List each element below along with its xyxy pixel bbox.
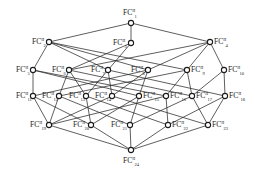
edge-fc2-fc5 (33, 42, 49, 70)
node-fc6 (66, 67, 71, 72)
node-label-fc5: FCII5 (16, 65, 31, 76)
node-fc10 (221, 67, 226, 72)
node-fc19 (46, 122, 51, 127)
edge-fc21-fc24 (130, 125, 131, 150)
node-fc23 (205, 122, 210, 127)
node-label-fc12: FCII12 (42, 91, 58, 102)
node-label-fc14: FCII14 (95, 91, 112, 102)
node-label-fc19: FCII19 (30, 120, 47, 131)
node-label-fc16: FCII16 (170, 91, 187, 102)
node-label-fc23: FCII23 (212, 120, 229, 131)
node-label-fc4: FCII4 (214, 37, 229, 48)
node-label-fc7: FCII7 (91, 65, 106, 76)
edge-fc7-fc14 (108, 70, 112, 96)
lattice-nodes (30, 20, 227, 152)
node-label-fc18: FCII18 (229, 91, 246, 102)
node-label-fc21: FCII21 (111, 120, 127, 131)
node-label-fc10: FCII10 (228, 65, 245, 76)
concept-lattice-diagram: FCII1FCII2FCII3FCII4FCII5FCII6FCII7FCII8… (0, 0, 255, 178)
node-fc8 (145, 67, 150, 72)
edge-fc10-fc18 (224, 70, 225, 96)
node-fc21 (127, 122, 132, 127)
node-fc17 (189, 93, 194, 98)
node-label-fc24: FCII24 (123, 156, 140, 167)
node-label-fc13: FCII13 (69, 91, 86, 102)
node-fc5 (30, 67, 35, 72)
node-label-fc2: FCII2 (32, 37, 46, 48)
node-label-fc20: FCII20 (73, 120, 90, 131)
node-fc4 (207, 39, 212, 44)
node-label-fc6: FCII6 (52, 65, 67, 76)
node-fc16 (163, 93, 168, 98)
node-fc20 (88, 122, 93, 127)
edge-fc16-fc22 (166, 96, 168, 125)
edge-fc13-fc20 (86, 96, 91, 125)
node-fc3 (128, 40, 133, 45)
node-fc15 (136, 93, 141, 98)
node-fc24 (128, 147, 133, 152)
node-label-fc3: FCII3 (113, 38, 128, 49)
node-label-fc22: FCII22 (172, 120, 188, 131)
edge-fc22-fc24 (131, 125, 168, 150)
node-label-fc1: FCII1 (123, 8, 137, 19)
node-fc9 (184, 67, 189, 72)
node-fc2 (46, 39, 51, 44)
edge-fc3-fc7 (108, 43, 131, 70)
node-label-fc15: FCII15 (143, 91, 160, 102)
node-fc1 (128, 20, 133, 25)
edge-fc1-fc4 (131, 23, 210, 42)
edge-fc23-fc24 (131, 125, 208, 150)
node-fc22 (165, 122, 170, 127)
node-label-fc11: FCII11 (16, 91, 32, 102)
node-label-fc8: FCII8 (131, 65, 146, 76)
edge-fc4-fc10 (210, 42, 224, 70)
node-fc7 (105, 67, 110, 72)
node-label-fc9: FCII9 (191, 65, 206, 76)
node-fc18 (222, 93, 227, 98)
